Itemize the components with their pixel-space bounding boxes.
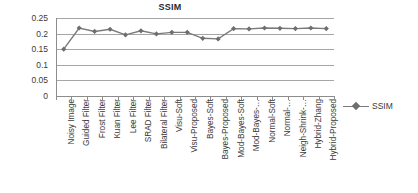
- y-axis-tick-labels: 00.050.10.150.20.25: [0, 18, 52, 96]
- data-point-marker: [324, 26, 329, 31]
- ssim-line-chart: SSIM 00.050.10.150.20.25 Noisy ImageGuid…: [0, 0, 418, 193]
- y-axis-tick-label: 0.25: [31, 14, 48, 22]
- y-axis-tick-label: 0.2: [36, 30, 48, 38]
- x-axis-category-label: Guided Filter: [82, 99, 91, 146]
- x-axis-tick-mark: [288, 96, 289, 100]
- series-ssim: [56, 18, 334, 96]
- x-axis-category-label: Visu-Proposed: [190, 99, 199, 153]
- data-point-marker: [154, 31, 159, 36]
- legend-marker-icon: [343, 102, 369, 111]
- x-axis-tick-mark: [319, 96, 320, 100]
- x-axis-category-label: Hybrid-Zhang: [314, 99, 323, 149]
- x-axis-tick-mark: [164, 96, 165, 100]
- x-axis-category-label: Bayes-Soft: [206, 99, 215, 139]
- x-axis-category-label: Bayes-Proposed: [221, 99, 230, 160]
- x-axis-category-label: Normal-Soft: [268, 99, 277, 143]
- x-axis-tick-mark: [87, 96, 88, 100]
- x-axis-tick-mark: [102, 96, 103, 100]
- data-point-marker: [262, 25, 267, 30]
- x-axis-category-label: Neigh-Shrink-…: [299, 99, 308, 157]
- data-point-marker: [308, 25, 313, 30]
- data-point-marker: [92, 29, 97, 34]
- chart-legend: SSIM: [343, 101, 393, 111]
- legend-item-label: SSIM: [372, 101, 393, 111]
- x-axis-category-label: Mod-Bayes-Soft: [237, 99, 246, 158]
- x-axis-category-label: Hybrid-Proposed: [329, 99, 338, 160]
- data-point-marker: [169, 30, 174, 35]
- y-axis-tick-label: 0.1: [36, 61, 48, 69]
- data-point-marker: [200, 36, 205, 41]
- x-axis-tick-mark: [272, 96, 273, 100]
- y-axis-tick-label: 0: [43, 92, 48, 100]
- x-axis-tick-mark: [334, 96, 335, 100]
- data-point-marker: [185, 30, 190, 35]
- x-axis-tick-mark: [133, 96, 134, 100]
- x-axis-tick-mark: [56, 96, 57, 100]
- x-axis-tick-mark: [195, 96, 196, 100]
- x-axis-category-label: Normal-…: [283, 99, 292, 136]
- data-point-marker: [138, 28, 143, 33]
- x-axis-category-label: Mod-Bayes-…: [252, 99, 261, 151]
- x-axis-category-label: Kuan Filter: [113, 99, 122, 139]
- x-axis-tick-mark: [226, 96, 227, 100]
- x-axis-category-label: Bilateral Filter: [160, 99, 169, 149]
- y-axis-tick-label: 0.15: [31, 45, 48, 53]
- x-axis-tick-mark: [149, 96, 150, 100]
- data-point-marker: [277, 26, 282, 31]
- x-axis-category-label: Frost Filter: [98, 99, 107, 138]
- x-axis-category-label: SRAD Filter: [144, 99, 153, 142]
- data-point-marker: [293, 26, 298, 31]
- x-axis-category-label: Noisy Image: [67, 99, 76, 145]
- x-axis-category-label: Visu-Soft: [175, 99, 184, 132]
- data-point-marker: [107, 27, 112, 32]
- series-line: [64, 28, 327, 49]
- x-axis-tick-mark: [180, 96, 181, 100]
- x-axis-tick-mark: [257, 96, 258, 100]
- data-point-marker: [246, 26, 251, 31]
- x-axis-tick-mark: [303, 96, 304, 100]
- y-axis-tick-label: 0.05: [31, 76, 48, 84]
- x-axis-tick-mark: [71, 96, 72, 100]
- x-axis-tick-mark: [210, 96, 211, 100]
- x-axis-tick-mark: [241, 96, 242, 100]
- x-axis-category-label: Lee Filter: [129, 99, 138, 133]
- x-axis-category-labels: Noisy ImageGuided FilterFrost FilterKuan…: [56, 99, 334, 191]
- x-axis-tick-mark: [118, 96, 119, 100]
- chart-title: SSIM: [0, 2, 340, 12]
- data-point-marker: [123, 32, 128, 37]
